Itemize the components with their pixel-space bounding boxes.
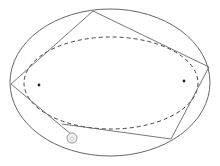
focus-point-left — [38, 84, 41, 87]
background — [0, 0, 220, 166]
ball-icon — [67, 133, 77, 143]
focus-point-right — [183, 80, 186, 83]
billiard-diagram — [0, 0, 220, 166]
